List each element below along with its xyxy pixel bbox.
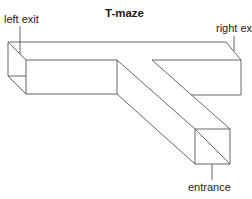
maze-outline: [8, 42, 241, 164]
t-maze-drawing: [0, 0, 252, 199]
